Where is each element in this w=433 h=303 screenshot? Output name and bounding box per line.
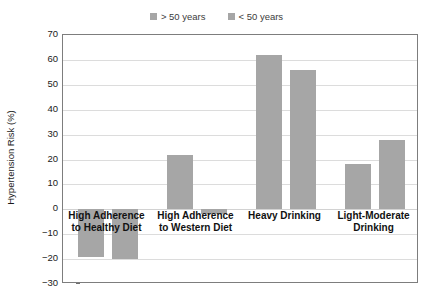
y-tick-label: 20 bbox=[24, 154, 58, 164]
y-tick-label: −10 bbox=[24, 228, 58, 238]
y-tick-label: 40 bbox=[24, 104, 58, 114]
bar bbox=[379, 140, 405, 210]
legend-entry-over-50: > 50 years bbox=[150, 12, 206, 22]
chart-legend: > 50 years < 50 years bbox=[0, 12, 433, 22]
y-tick-label: 70 bbox=[24, 29, 58, 39]
legend-entry-under-50: < 50 years bbox=[228, 12, 284, 22]
category-label: Heavy Drinking bbox=[240, 210, 329, 222]
gridline bbox=[63, 259, 417, 260]
y-axis-tick-labels: 706050403020100−10−20−30 bbox=[18, 34, 58, 283]
y-tick-label: −30 bbox=[24, 278, 58, 288]
category-label: High Adherence to Western Diet bbox=[151, 210, 240, 234]
y-tick-label: 60 bbox=[24, 54, 58, 64]
gridline bbox=[63, 135, 417, 136]
bar bbox=[345, 164, 371, 209]
legend-label-over-50: > 50 years bbox=[161, 12, 206, 22]
category-label: Light-Moderate Drinking bbox=[329, 210, 418, 234]
gridline bbox=[63, 110, 417, 111]
y-tick-label: 0 bbox=[24, 204, 58, 214]
chart-figure: > 50 years < 50 years Hypertension Risk … bbox=[0, 0, 433, 303]
y-tick-label: −20 bbox=[24, 253, 58, 263]
y-tick-mark bbox=[76, 283, 80, 284]
y-axis-title: Hypertension Risk (%) bbox=[5, 58, 16, 258]
y-tick-label: 30 bbox=[24, 129, 58, 139]
category-label: High Adherence to Healthy Diet bbox=[62, 210, 151, 234]
gridline bbox=[63, 60, 417, 61]
bar bbox=[256, 55, 282, 209]
legend-swatch-over-50 bbox=[150, 13, 157, 20]
bar bbox=[290, 70, 316, 209]
legend-swatch-under-50 bbox=[228, 13, 235, 20]
legend-label-under-50: < 50 years bbox=[239, 12, 284, 22]
plot-area bbox=[62, 34, 418, 283]
y-tick-label: 50 bbox=[24, 79, 58, 89]
bar bbox=[167, 155, 193, 210]
gridline bbox=[63, 85, 417, 86]
y-tick-label: 10 bbox=[24, 179, 58, 189]
gridline bbox=[63, 160, 417, 161]
